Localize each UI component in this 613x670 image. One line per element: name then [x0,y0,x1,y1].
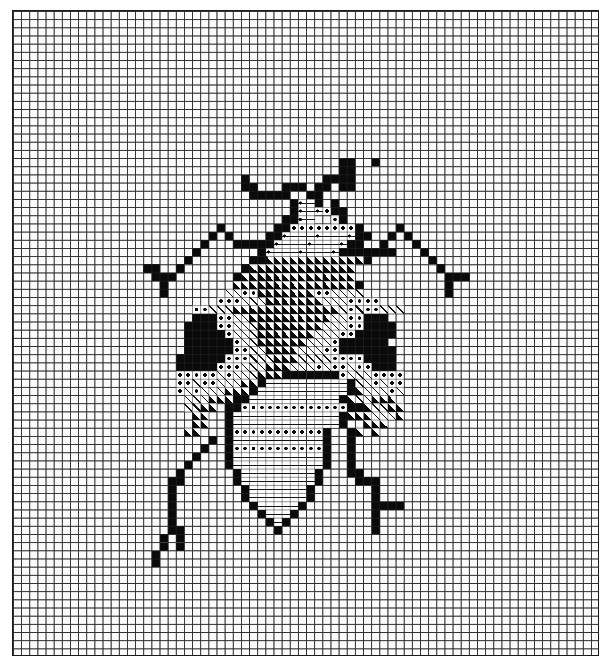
hatch-cell [249,371,257,379]
dash-cell [282,412,290,420]
dot-cell [274,444,282,452]
dash-cell [298,469,306,477]
black-cell [209,363,217,371]
dot-cell [233,428,241,436]
dot-cell [225,297,233,305]
black-cell [355,330,363,338]
dot-cell [307,224,315,232]
hatch-cell [331,322,339,330]
dash-cell [290,461,298,469]
triangle-cell [282,305,290,313]
triangle-cell [258,371,266,379]
triangle-cell [298,273,306,281]
triangle-cell [298,297,306,305]
triangle-cell [307,314,315,322]
black-cell [372,354,380,362]
hatch-cell [364,387,372,395]
black-cell [225,444,233,452]
black-cell [372,330,380,338]
black-cell [339,166,347,174]
dash-cell [331,420,339,428]
dash-cell [241,453,249,461]
black-cell [347,403,355,411]
dot-cell [233,297,241,305]
triangle-cell [282,330,290,338]
triangle-cell [307,305,315,313]
triangle-cell [274,330,282,338]
hatch-cell [355,305,363,313]
triangle-cell [396,403,404,411]
triangle-cell [290,305,298,313]
triangle-cell [307,322,315,330]
black-cell [168,273,176,281]
black-cell [201,346,209,354]
black-cell [404,232,412,240]
dash-cell [274,477,282,485]
black-cell [339,207,347,215]
dot-cell [347,354,355,362]
dot-cell [364,305,372,313]
triangle-cell [364,420,372,428]
dash-cell [323,232,331,240]
dash-cell [241,436,249,444]
dot-cell [258,403,266,411]
dash-cell [315,379,323,387]
triangle-cell [331,305,339,313]
black-cell [307,191,315,199]
black-cell [152,273,160,281]
black-cell [274,191,282,199]
hatch-cell [241,322,249,330]
black-cell [339,248,347,256]
black-cell [323,436,331,444]
dot-cell [217,322,225,330]
hatch-cell [290,363,298,371]
dash-cell [282,379,290,387]
dash-cell [266,510,274,518]
dash-cell [274,453,282,461]
dot-cell [290,444,298,452]
black-cell [176,526,184,534]
hatch-cell [192,403,200,411]
black-cell [323,428,331,436]
hatch-cell [184,403,192,411]
dot-cell [364,363,372,371]
triangle-cell [266,273,274,281]
black-cell [372,477,380,485]
dash-cell [339,387,347,395]
triangle-cell [249,281,257,289]
triangle-cell [274,338,282,346]
black-cell [225,420,233,428]
dash-cell [307,215,315,223]
black-cell [461,273,469,281]
dash-cell [274,469,282,477]
dot-cell [380,371,388,379]
dash-cell [266,485,274,493]
black-cell [266,232,274,240]
black-cell [192,248,200,256]
triangle-cell [380,420,388,428]
black-cell [176,264,184,272]
dash-cell [249,453,257,461]
dash-cell [274,518,282,526]
black-cell [249,387,257,395]
black-cell [364,477,372,485]
hatch-cell [241,338,249,346]
dash-cell [282,420,290,428]
triangle-cell [274,354,282,362]
triangle-cell [266,322,274,330]
dash-cell [290,387,298,395]
dot-cell [307,403,315,411]
dot-cell [315,289,323,297]
black-cell [396,224,404,232]
black-cell [192,330,200,338]
triangle-cell [298,330,306,338]
dash-cell [282,477,290,485]
black-cell [355,281,363,289]
black-cell [421,248,429,256]
dot-cell [249,444,257,452]
dot-cell [355,363,363,371]
dash-cell [290,395,298,403]
black-cell [290,371,298,379]
hatch-cell [298,346,306,354]
dash-cell [315,395,323,403]
